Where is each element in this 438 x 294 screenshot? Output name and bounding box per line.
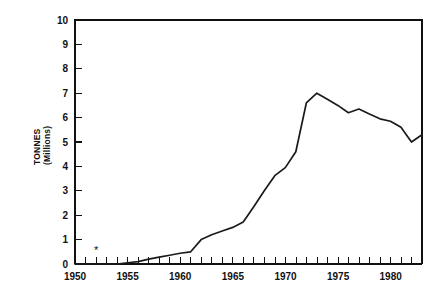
data-series-line <box>75 93 422 264</box>
x-tick-label-1950: 1950 <box>64 271 87 282</box>
asterisk-marker: * <box>94 244 99 256</box>
x-tick-label-1970: 1970 <box>274 271 297 282</box>
y-axis-label-line1: TONNES <box>32 128 42 165</box>
y-tick-label-7: 7 <box>62 88 68 99</box>
y-tick-label-1: 1 <box>62 234 68 245</box>
annotation-layer: * <box>94 244 99 256</box>
y-tick-label-6: 6 <box>62 112 68 123</box>
plot-frame <box>75 20 422 264</box>
y-axis-label: TONNES (Millions) <box>32 126 52 165</box>
line-chart: TONNES (Millions) 0 1 2 3 4 5 6 7 <box>0 0 438 294</box>
x-tick-label-1975: 1975 <box>327 271 350 282</box>
y-tick-label-4: 4 <box>62 161 68 172</box>
x-tick-label-1955: 1955 <box>116 271 139 282</box>
x-tick-label-1965: 1965 <box>222 271 245 282</box>
chart-container: TONNES (Millions) 0 1 2 3 4 5 6 7 <box>0 0 438 294</box>
y-tick-label-9: 9 <box>62 39 68 50</box>
x-tick-label-1980: 1980 <box>380 271 403 282</box>
y-tick-label-2: 2 <box>62 210 68 221</box>
axis-frame-path <box>75 20 422 264</box>
y-tick-label-0: 0 <box>62 259 68 270</box>
y-axis-ticks: 0 1 2 3 4 5 6 7 8 9 10 <box>57 15 82 270</box>
x-axis-labels: 1950 1955 1960 1965 1970 1975 1980 <box>64 271 402 282</box>
x-tick-label-1960: 1960 <box>169 271 192 282</box>
y-axis-label-line2: (Millions) <box>42 126 52 165</box>
y-tick-label-10: 10 <box>57 15 69 26</box>
y-tick-label-3: 3 <box>62 185 68 196</box>
y-tick-label-5: 5 <box>62 137 68 148</box>
y-tick-label-8: 8 <box>62 63 68 74</box>
